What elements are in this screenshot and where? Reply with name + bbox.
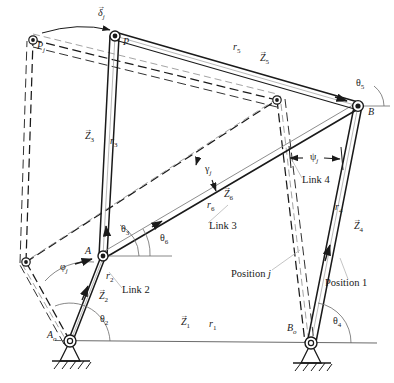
delta-j-dimension bbox=[42, 27, 110, 33]
label-gamma-j: γj bbox=[205, 164, 211, 177]
vector-arrow-Z6: → bbox=[223, 184, 230, 192]
label-B: B bbox=[368, 107, 374, 117]
position-j-thin-outlines bbox=[22, 34, 309, 347]
figure-canvas: →δj P Pj r5 →Z5 θ5 B →Z3 r3 γj ψj Link 4… bbox=[0, 0, 394, 383]
label-psi-j: ψj bbox=[310, 152, 318, 165]
vector-direction-arrows bbox=[75, 97, 347, 300]
position-j-linkage bbox=[20, 40, 314, 344]
link4-centerline bbox=[311, 106, 358, 343]
joint-Pj-center bbox=[31, 38, 35, 42]
vector-arrow-delta-j: → bbox=[97, 3, 104, 11]
label-r1: r1 bbox=[209, 319, 216, 332]
link4-position-j-edge bbox=[285, 99, 314, 342]
leader-position-1 bbox=[340, 258, 348, 279]
link2-position-j-edge bbox=[20, 265, 64, 344]
label-link4: Link 4 bbox=[302, 175, 330, 186]
label-r4: r4 bbox=[335, 202, 342, 215]
label-B0: Bo bbox=[287, 323, 297, 336]
joint-B-center bbox=[355, 103, 360, 108]
label-theta6: θ6 bbox=[160, 233, 168, 246]
label-position-1: Position 1 bbox=[325, 278, 367, 289]
label-A: A bbox=[85, 246, 91, 256]
delta-j-arrow bbox=[42, 27, 110, 33]
label-Z2: →Z2 bbox=[99, 291, 108, 304]
label-Pj: Pj bbox=[37, 41, 45, 54]
label-Z5: →Z5 bbox=[260, 53, 269, 66]
link3-left-position-j bbox=[26, 40, 33, 262]
coupler-position-j bbox=[26, 100, 277, 262]
vector-arrow-Z2: → bbox=[98, 286, 105, 294]
label-link3: Link 3 bbox=[209, 221, 237, 232]
B0-hatching bbox=[295, 363, 332, 371]
joint-Cj-center bbox=[275, 98, 279, 102]
link5-position-j-edge bbox=[33, 47, 277, 107]
ground-reference-line bbox=[55, 341, 377, 344]
label-Z3: →Z3 bbox=[85, 131, 94, 144]
label-r3: r3 bbox=[110, 136, 117, 149]
label-theta4: θ4 bbox=[333, 316, 341, 329]
label-theta5: θ5 bbox=[356, 78, 364, 91]
vector-arrow-Z5: → bbox=[259, 48, 266, 56]
label-theta3: θ3 bbox=[121, 224, 129, 237]
link2-j-thin bbox=[22, 264, 70, 347]
vector-arrow-Z1: → bbox=[180, 312, 187, 320]
phi-j-arc bbox=[45, 262, 94, 281]
label-Z1: →Z1 bbox=[181, 317, 190, 330]
label-P: P bbox=[123, 37, 129, 47]
label-theta2: θ2 bbox=[100, 314, 108, 327]
link3-left-position-j-edge bbox=[20, 41, 27, 263]
psi-j-arrow-right bbox=[324, 158, 340, 159]
joint-A-center bbox=[101, 254, 106, 259]
joint-P-center bbox=[113, 34, 118, 39]
label-A0: Ao bbox=[47, 330, 57, 343]
A0-pin bbox=[67, 338, 72, 343]
vector-arrow-Z4: → bbox=[353, 216, 360, 224]
vector-arrow-Z3: → bbox=[84, 126, 91, 134]
joint-Aj-center bbox=[24, 260, 28, 264]
label-r2: r2 bbox=[106, 271, 113, 284]
theta5-arc bbox=[374, 86, 384, 106]
A0-hatching bbox=[54, 361, 91, 369]
link4-position-j bbox=[277, 100, 305, 343]
label-position-j: Position j bbox=[231, 269, 271, 280]
link2-edge-a bbox=[67, 259, 100, 344]
gamma-j-arrow-upper bbox=[196, 158, 198, 165]
link4-edge-a bbox=[307, 107, 354, 344]
label-Z4: →Z4 bbox=[354, 221, 363, 234]
label-link2: Link 2 bbox=[122, 285, 150, 296]
label-Z6: →Z6 bbox=[224, 189, 233, 202]
label-r5: r5 bbox=[233, 42, 240, 55]
Z3-arrow bbox=[106, 226, 107, 236]
label-r6: r6 bbox=[207, 200, 214, 213]
label-delta-j: →δj bbox=[98, 8, 105, 21]
label-phi-j: φj bbox=[60, 262, 68, 275]
B0-pin bbox=[308, 340, 313, 345]
